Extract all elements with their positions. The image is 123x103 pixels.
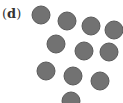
circle-4 xyxy=(105,21,123,39)
circle-arrangement xyxy=(0,0,123,103)
circle-6 xyxy=(75,42,93,60)
circle-9 xyxy=(64,67,82,85)
circle-11 xyxy=(62,92,80,103)
circle-10 xyxy=(91,72,109,90)
circle-3 xyxy=(82,17,100,35)
circle-2 xyxy=(58,12,76,30)
circle-1 xyxy=(32,6,50,24)
circle-5 xyxy=(47,35,65,53)
circle-7 xyxy=(100,43,118,61)
circle-8 xyxy=(37,62,55,80)
